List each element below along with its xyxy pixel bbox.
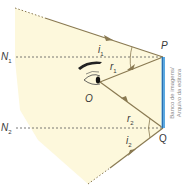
ray-diagram (0, 0, 193, 187)
label-i2: i2 (126, 136, 132, 148)
label-p: P (161, 41, 168, 51)
label-r1: r1 (110, 62, 117, 74)
credit-line-1: Banco de imagens/ (169, 67, 176, 118)
label-i1: i1 (98, 45, 104, 57)
label-o: O (85, 94, 93, 104)
credit-line-2: Arquivo da editora (176, 67, 183, 118)
image-credit: Banco de imagens/ Arquivo da editora (169, 67, 183, 118)
label-n1: N1 (1, 52, 12, 64)
label-q: Q (159, 134, 167, 144)
mirror-highlight (162, 57, 163, 128)
label-n2: N2 (1, 123, 12, 135)
eye-pupil (96, 77, 100, 84)
label-r2: r2 (127, 114, 134, 126)
